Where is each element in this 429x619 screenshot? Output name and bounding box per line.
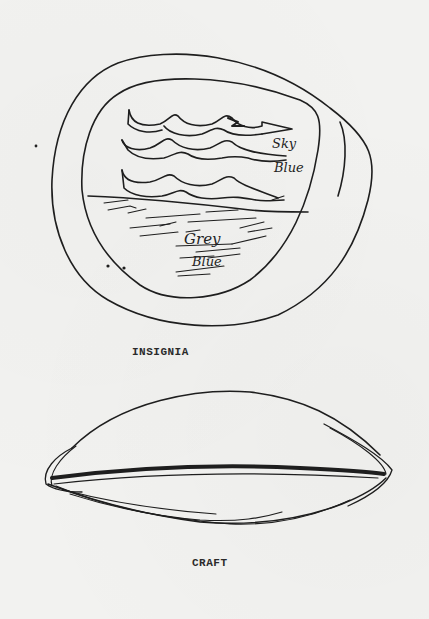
craft-sketch xyxy=(0,0,429,619)
craft-caption: CRAFT xyxy=(192,557,228,569)
document-page: Sky Blue Grey Blue INSIGNIA CRAFT xyxy=(0,0,429,619)
craft-dome xyxy=(72,391,380,455)
insignia-caption: INSIGNIA xyxy=(132,346,189,358)
